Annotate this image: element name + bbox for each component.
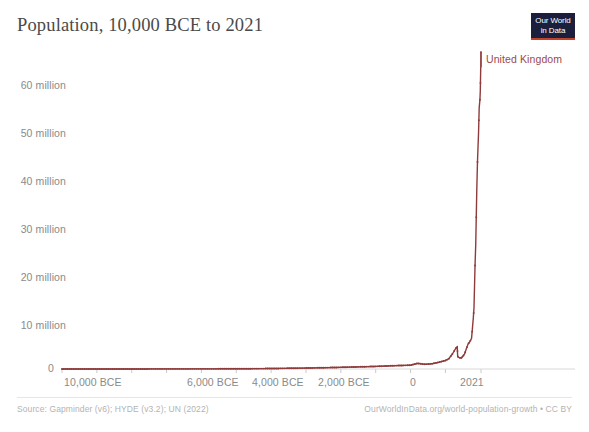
- population-line-united-kingdom: [62, 52, 481, 369]
- x-tick-label-6000-bce: 6,000 BCE: [187, 376, 239, 388]
- x-axis-tick-marks: [62, 369, 481, 373]
- y-tick-label-50m: 50 million: [14, 127, 66, 139]
- y-tick-label-0: 0: [14, 362, 54, 374]
- chart-container: Population, 10,000 BCE to 2021 Our World…: [0, 0, 589, 432]
- y-tick-label-10m: 10 million: [14, 319, 66, 331]
- x-tick-label-4000-bce: 4,000 BCE: [252, 376, 304, 388]
- logo-line-1: Our World: [531, 16, 575, 26]
- population-data-points: [61, 51, 482, 370]
- x-tick-label-2000-bce: 2,000 BCE: [318, 376, 370, 388]
- y-tick-label-40m: 40 million: [14, 175, 66, 187]
- our-world-in-data-logo[interactable]: Our World in Data: [531, 13, 575, 40]
- y-tick-label-30m: 30 million: [14, 223, 66, 235]
- footer-source-text: Source: Gapminder (v6); HYDE (v3.2); UN …: [17, 404, 209, 414]
- y-tick-label-60m: 60 million: [14, 79, 66, 91]
- chart-title: Population, 10,000 BCE to 2021: [17, 15, 263, 36]
- series-label-united-kingdom: United Kingdom: [486, 53, 562, 65]
- x-tick-label-0: 0: [410, 376, 416, 388]
- y-tick-label-20m: 20 million: [14, 271, 66, 283]
- logo-line-2: in Data: [531, 26, 575, 36]
- x-tick-label-10000-bce: 10,000 BCE: [64, 376, 122, 388]
- footer-divider: [17, 397, 572, 398]
- footer-license-link[interactable]: OurWorldInData.org/world-population-grow…: [364, 404, 572, 414]
- x-tick-label-2021: 2021: [460, 376, 484, 388]
